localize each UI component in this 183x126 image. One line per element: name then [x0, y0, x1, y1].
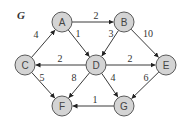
- node-f: F: [52, 96, 72, 116]
- node-a: A: [52, 12, 72, 32]
- node-b: B: [114, 12, 134, 32]
- node-label: G: [120, 101, 128, 112]
- node-d: D: [86, 55, 106, 75]
- edge-weight-b-d: 3: [109, 28, 114, 39]
- edge-weight-d-c: 2: [58, 53, 63, 64]
- node-g: G: [114, 96, 134, 116]
- node-label: E: [163, 60, 170, 71]
- edge-weight-g-f: 1: [93, 94, 98, 105]
- edge-weight-d-g: 4: [111, 72, 116, 83]
- edge-weight-c-f: 5: [40, 72, 45, 83]
- node-label: F: [59, 101, 65, 112]
- weighted-directed-graph: G 4213102258461 ABCDEFG: [0, 0, 183, 126]
- node-label: A: [59, 17, 66, 28]
- node-label: D: [92, 60, 99, 71]
- node-c: C: [15, 55, 35, 75]
- edge-weight-b-e: 10: [143, 28, 153, 39]
- node-label: C: [21, 60, 28, 71]
- node-label: B: [121, 17, 128, 28]
- edge-weight-d-e: 2: [128, 53, 133, 64]
- edge-weight-d-f: 8: [72, 72, 77, 83]
- edge-weight-e-g: 6: [144, 72, 149, 83]
- edge-weight-a-b: 2: [94, 10, 99, 21]
- graph-title: G: [17, 9, 25, 21]
- edge-weight-c-a: 4: [34, 29, 39, 40]
- node-e: E: [156, 55, 176, 75]
- edge-weight-a-d: 1: [76, 28, 81, 39]
